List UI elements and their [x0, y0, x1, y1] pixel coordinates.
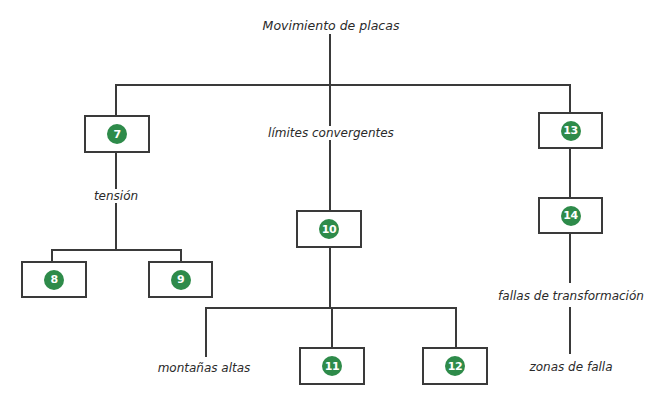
- number-badge-11: 11: [322, 356, 342, 376]
- label-limites-convergentes: límites convergentes: [266, 126, 396, 140]
- box-8[interactable]: 8: [21, 261, 87, 298]
- number-badge-7: 7: [107, 124, 127, 144]
- connector: [205, 307, 207, 357]
- number-badge-13: 13: [561, 121, 581, 141]
- connector: [115, 84, 117, 116]
- box-7[interactable]: 7: [84, 115, 150, 153]
- label-montanas-altas: montañas altas: [156, 361, 253, 375]
- box-13[interactable]: 13: [538, 112, 603, 149]
- connector: [569, 307, 571, 354]
- number-badge-14: 14: [561, 206, 581, 226]
- label-fallas-de-transformacion: fallas de transformación: [496, 289, 646, 303]
- number-badge-12: 12: [445, 356, 465, 376]
- box-14[interactable]: 14: [538, 197, 603, 234]
- connector: [329, 247, 331, 309]
- number-badge-10: 10: [319, 219, 339, 239]
- connector: [569, 148, 571, 198]
- connector: [329, 34, 331, 85]
- box-9[interactable]: 9: [148, 261, 213, 298]
- label-zonas-de-falla: zonas de falla: [527, 360, 614, 374]
- connector: [331, 307, 333, 348]
- connector: [569, 84, 571, 113]
- number-badge-8: 8: [44, 270, 64, 290]
- connector: [51, 249, 182, 251]
- connector: [455, 307, 457, 348]
- connector: [569, 233, 571, 283]
- connector: [115, 84, 571, 86]
- diagram-title: Movimiento de placas: [261, 19, 402, 33]
- box-10[interactable]: 10: [296, 210, 362, 248]
- connector: [329, 84, 331, 211]
- box-11[interactable]: 11: [299, 347, 365, 385]
- number-badge-9: 9: [171, 270, 191, 290]
- label-tension: tensión: [92, 189, 140, 203]
- box-12[interactable]: 12: [422, 347, 488, 385]
